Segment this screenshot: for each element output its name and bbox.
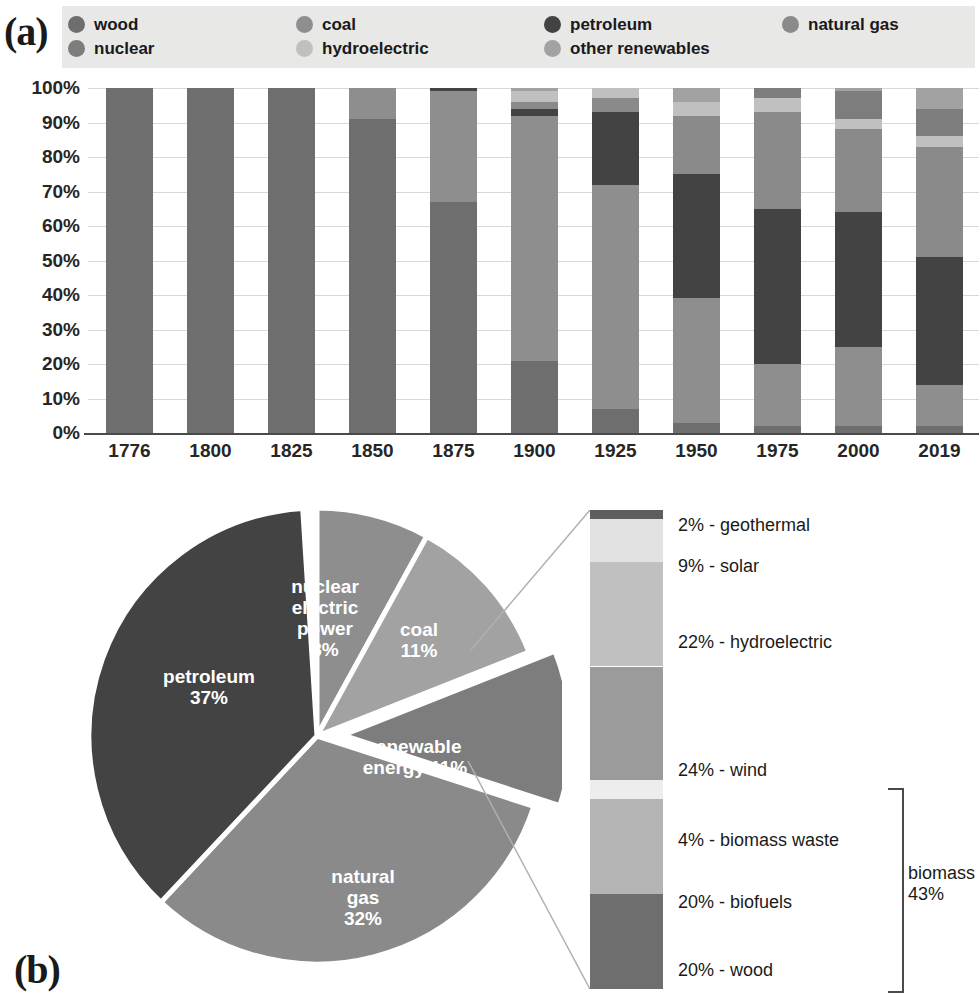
x-tick-label-1975: 1975 — [733, 440, 823, 462]
y-tick-label: 50% — [2, 251, 80, 270]
legend-item-label: natural gas — [808, 16, 899, 33]
bar-chart-plot-area — [88, 88, 979, 433]
bar-segment-petroleum — [916, 257, 963, 385]
bar-2000[interactable] — [835, 88, 882, 433]
x-tick-label-1776: 1776 — [85, 440, 175, 462]
bar-segment-hydroelectric — [673, 102, 720, 116]
bar-segment-hydroelectric — [835, 119, 882, 129]
breakdown-label-biomass-waste: 4% - biomass waste — [678, 830, 839, 851]
breakdown-segment-geothermal[interactable] — [590, 510, 663, 519]
bar-segment-hydroelectric — [916, 136, 963, 146]
x-tick-label-1800: 1800 — [166, 440, 256, 462]
pie-label-natural-gas: natural gas 32% — [288, 866, 438, 929]
bar-1925[interactable] — [592, 88, 639, 433]
x-tick-label-1925: 1925 — [571, 440, 661, 462]
bar-segment-natural-gas — [673, 116, 720, 175]
breakdown-segment-solar[interactable] — [590, 519, 663, 562]
pie-label-coal: coal 11% — [344, 619, 494, 661]
breakdown-segment-biofuels[interactable] — [590, 799, 663, 894]
bar-segment-other-renewables — [511, 88, 558, 91]
legend-swatch-icon — [544, 16, 561, 33]
bar-1950[interactable] — [673, 88, 720, 433]
bar-segment-petroleum — [592, 112, 639, 184]
bar-segment-nuclear — [835, 91, 882, 119]
legend-swatch-icon — [296, 16, 313, 33]
bar-segment-petroleum — [835, 212, 882, 347]
bar-1776[interactable] — [106, 88, 153, 433]
legend-swatch-icon — [782, 16, 799, 33]
bar-segment-petroleum — [511, 109, 558, 116]
bar-segment-coal — [673, 298, 720, 422]
legend: woodnuclearcoalhydroelectricpetroleumoth… — [62, 6, 975, 68]
bar-2019[interactable] — [916, 88, 963, 433]
bar-segment-wood — [916, 426, 963, 433]
panel-a-energy-history: (a) woodnuclearcoalhydroelectricpetroleu… — [0, 0, 979, 466]
x-tick-label-1825: 1825 — [247, 440, 337, 462]
panel-b-energy-mix: (b) petroleum 37%nuclear electric power … — [0, 466, 979, 989]
bar-segment-hydroelectric — [511, 91, 558, 101]
legend-item-label: other renewables — [570, 40, 710, 57]
legend-item-wood[interactable]: wood — [68, 12, 154, 36]
bar-segment-nuclear — [754, 88, 801, 98]
bar-segment-coal — [592, 185, 639, 409]
legend-item-label: hydroelectric — [322, 40, 429, 57]
legend-column-1: coalhydroelectric — [296, 12, 429, 60]
bar-segment-wood — [511, 361, 558, 433]
bar-segment-coal — [349, 88, 396, 119]
bar-segment-wood — [835, 426, 882, 433]
panel-b-letter: (b) — [14, 946, 60, 993]
bar-segment-coal — [511, 116, 558, 361]
breakdown-label-solar: 9% - solar — [678, 556, 759, 577]
bar-1975[interactable] — [754, 88, 801, 433]
bar-segment-wood — [187, 88, 234, 433]
y-tick-label: 100% — [2, 78, 80, 97]
legend-item-petroleum[interactable]: petroleum — [544, 12, 710, 36]
bar-segment-hydroelectric — [592, 88, 639, 98]
pie-chart: petroleum 37%nuclear electric power 8%co… — [72, 491, 562, 981]
bar-segment-natural-gas — [592, 98, 639, 112]
breakdown-label-wind: 24% - wind — [678, 760, 767, 781]
x-tick-label-1900: 1900 — [490, 440, 580, 462]
breakdown-label-wood: 20% - wood — [678, 960, 773, 981]
breakdown-segment-biomass-waste[interactable] — [590, 780, 663, 799]
bar-segment-wood — [106, 88, 153, 433]
bar-segment-coal — [430, 91, 477, 201]
legend-item-nuclear[interactable]: nuclear — [68, 36, 154, 60]
bar-1825[interactable] — [268, 88, 315, 433]
bar-1875[interactable] — [430, 88, 477, 433]
biomass-bracket-label: biomass 43% — [908, 863, 975, 905]
bar-segment-petroleum — [430, 88, 477, 91]
x-tick-label-1875: 1875 — [409, 440, 499, 462]
bar-segment-wood — [754, 426, 801, 433]
legend-item-hydroelectric[interactable]: hydroelectric — [296, 36, 429, 60]
y-tick-label: 70% — [2, 182, 80, 201]
bar-1850[interactable] — [349, 88, 396, 433]
legend-item-natural-gas[interactable]: natural gas — [782, 12, 899, 36]
breakdown-label-biofuels: 20% - biofuels — [678, 892, 792, 913]
bar-segment-wood — [592, 409, 639, 433]
bar-1800[interactable] — [187, 88, 234, 433]
x-tick-label-1950: 1950 — [652, 440, 742, 462]
y-tick-label: 80% — [2, 147, 80, 166]
legend-item-other-renewables[interactable]: other renewables — [544, 36, 710, 60]
breakdown-segment-wood[interactable] — [590, 894, 663, 989]
bar-segment-coal — [835, 347, 882, 426]
legend-swatch-icon — [544, 40, 561, 57]
legend-item-label: petroleum — [570, 16, 652, 33]
pie-label-renewable-energy: renewable energy 11% — [340, 736, 490, 778]
breakdown-segment-wind[interactable] — [590, 667, 663, 781]
bar-segment-wood — [430, 202, 477, 433]
bar-segment-other-renewables — [835, 88, 882, 91]
legend-item-label: wood — [94, 16, 138, 33]
bar-segment-wood — [673, 423, 720, 433]
bar-segment-wood — [349, 119, 396, 433]
legend-column-2: petroleumother renewables — [544, 12, 710, 60]
legend-column-0: woodnuclear — [68, 12, 154, 60]
breakdown-segment-hydroelectric[interactable] — [590, 562, 663, 666]
bar-1900[interactable] — [511, 88, 558, 433]
legend-item-label: coal — [322, 16, 356, 33]
x-tick-label-2019: 2019 — [895, 440, 979, 462]
bar-segment-other-renewables — [673, 88, 720, 102]
renewable-breakdown-bar — [590, 510, 663, 989]
legend-item-coal[interactable]: coal — [296, 12, 429, 36]
